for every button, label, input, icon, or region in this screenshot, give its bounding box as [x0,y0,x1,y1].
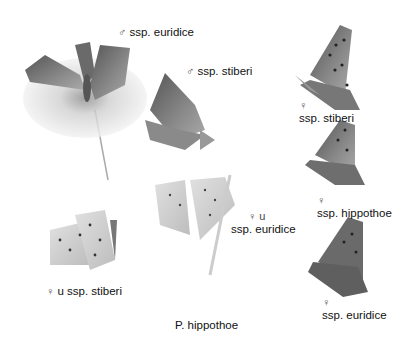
butterfly-female-euridice [308,217,368,297]
label-female-underside-stiberi: ♀ u ssp. stiberi [46,285,122,298]
butterfly-female-hippothoe [305,120,365,185]
label-female-stiberi: ♀ ssp. stiberi [299,99,354,125]
butterfly-female-stiberi [295,25,360,110]
label-female-hippothoe: ♀ ssp. hippothoe [317,194,392,220]
label-female-underside-euridice: ♀ u ssp. euridice [231,210,296,236]
label-male-stiberi: ♂ ssp. stiberi [186,65,252,78]
plate-title: P. hippothoe [175,319,238,332]
butterfly-female-underside-euridice [155,175,235,275]
butterfly-female-underside-stiberi [50,210,117,270]
label-female-euridice: ♀ ssp. euridice [322,296,387,322]
label-male-euridice: ♂ ssp. euridice [118,26,194,39]
butterfly-male-stiberi [145,73,215,150]
